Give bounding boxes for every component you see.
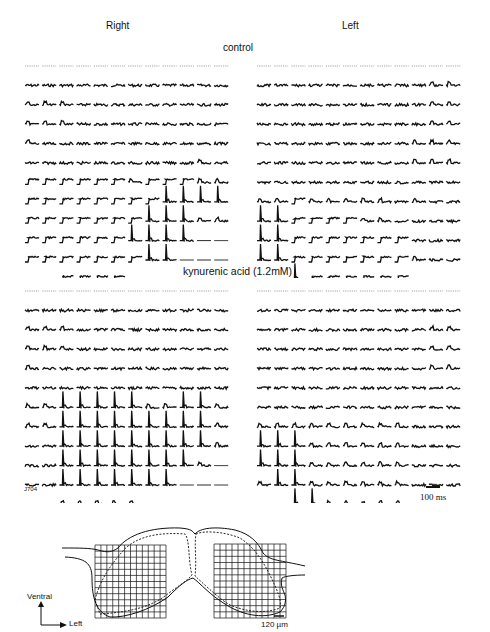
orientation-ventral-label: Ventral xyxy=(27,592,52,601)
spinal-cord-diagram xyxy=(0,0,490,632)
cord-outline xyxy=(62,528,305,617)
spatial-scale-label: 120 µm xyxy=(261,620,288,629)
orientation-left-label: Left xyxy=(69,619,82,628)
recording-grid-left-side xyxy=(214,544,286,618)
recording-grid-right-side xyxy=(95,545,166,618)
